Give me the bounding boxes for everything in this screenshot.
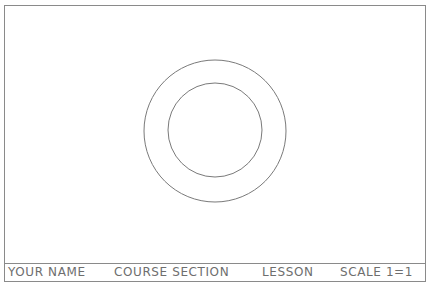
title-field-course-section: COURSE SECTION	[114, 264, 229, 282]
title-field-lesson: LESSON	[262, 264, 314, 282]
outer-circle	[144, 60, 286, 202]
drawing-border	[5, 6, 426, 282]
title-field-scale: SCALE 1=1	[340, 264, 413, 282]
title-field-name: YOUR NAME	[8, 264, 86, 282]
cad-drawing-canvas	[0, 0, 430, 284]
inner-circle	[168, 83, 262, 177]
